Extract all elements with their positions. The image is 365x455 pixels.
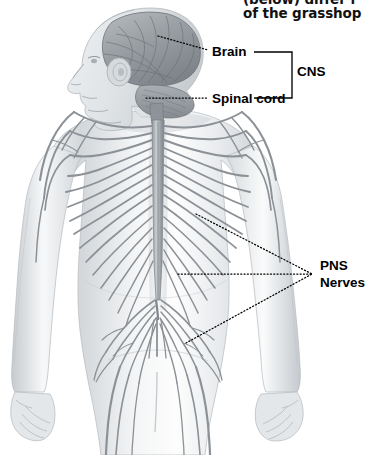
label-pns: PNS [320, 258, 348, 273]
caption-fragment-line-2: of the grasshop [243, 6, 361, 20]
figure-canvas: (below) differ f of the grasshop Brain S… [0, 0, 365, 455]
right-arm [226, 146, 303, 441]
label-cns: CNS [297, 64, 326, 79]
label-spinal-cord: Spinal cord [212, 91, 286, 106]
label-brain: Brain [212, 44, 247, 59]
ear [107, 58, 131, 86]
label-nerves: Nerves [320, 275, 365, 290]
